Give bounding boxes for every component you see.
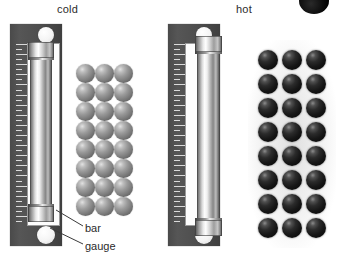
molecule-cold <box>76 83 95 102</box>
ruler-tick <box>16 79 22 80</box>
corner-blob-artifact <box>299 0 329 14</box>
ruler-tick <box>16 110 22 111</box>
ruler-tick <box>174 125 185 126</box>
molecule-hot <box>282 194 302 214</box>
ruler-tick <box>174 196 185 197</box>
molecule-hot <box>306 218 326 238</box>
ruler-tick <box>174 59 180 60</box>
ruler-tick <box>16 175 27 176</box>
callout-label-bar: bar <box>85 222 101 234</box>
molecule-hot <box>258 74 278 94</box>
bar-band-bottom-hot <box>195 218 222 220</box>
ruler-tick <box>16 74 27 75</box>
gauge-ruler-hot <box>174 44 186 226</box>
ruler-tick <box>174 44 185 45</box>
bar-band-top-cold <box>28 58 54 60</box>
ruler-tick <box>174 64 185 65</box>
molecule-cold <box>95 102 114 121</box>
ruler-tick <box>16 135 27 136</box>
metal-bar-hot <box>197 36 220 236</box>
molecule-cold <box>76 140 95 159</box>
molecule-hot <box>258 122 278 142</box>
molecule-grid-hot <box>258 50 326 238</box>
ruler-tick <box>16 120 22 121</box>
molecule-hot <box>282 170 302 190</box>
ruler-tick <box>174 186 185 187</box>
ruler-tick <box>174 181 180 182</box>
bar-cap-top-cold <box>28 42 54 58</box>
molecule-cold <box>95 121 114 140</box>
molecule-cold <box>114 121 133 140</box>
molecule-hot <box>258 194 278 214</box>
molecule-cold <box>76 121 95 140</box>
molecule-hot <box>306 74 326 94</box>
ruler-tick <box>174 95 185 96</box>
ruler-tick <box>16 201 22 202</box>
molecule-hot <box>282 50 302 70</box>
molecule-cold <box>114 140 133 159</box>
ruler-tick <box>16 150 22 151</box>
ruler-tick <box>174 110 180 111</box>
molecule-hot <box>282 122 302 142</box>
gauge-bolt-hole-top-cold <box>38 27 54 43</box>
molecule-hot <box>282 218 302 238</box>
molecule-cold <box>76 197 95 216</box>
molecule-hot <box>306 194 326 214</box>
bar-cap-bottom-cold <box>28 206 54 222</box>
ruler-tick <box>16 140 22 141</box>
molecule-hot <box>258 98 278 118</box>
molecule-hot <box>306 50 326 70</box>
ruler-tick <box>174 160 180 161</box>
molecule-hot <box>306 98 326 118</box>
ruler-tick <box>16 44 27 45</box>
ruler-tick <box>174 216 185 217</box>
ruler-tick <box>16 64 27 65</box>
ruler-tick <box>174 69 180 70</box>
molecule-hot <box>306 122 326 142</box>
gauge-ruler-cold <box>16 44 28 226</box>
molecule-hot <box>258 146 278 166</box>
ruler-tick <box>16 125 27 126</box>
molecule-cold <box>95 197 114 216</box>
ruler-tick <box>174 150 180 151</box>
ruler-tick <box>16 191 22 192</box>
ruler-tick <box>174 90 180 91</box>
bar-band-bottom-cold <box>28 204 54 206</box>
ruler-tick <box>174 170 180 171</box>
ruler-tick <box>174 135 185 136</box>
ruler-tick <box>16 59 22 60</box>
ruler-tick <box>16 170 22 171</box>
ruler-tick <box>16 160 22 161</box>
ruler-tick <box>174 201 180 202</box>
molecule-hot <box>282 98 302 118</box>
molecule-cold <box>95 140 114 159</box>
molecule-hot <box>306 146 326 166</box>
ruler-tick <box>174 140 180 141</box>
molecule-cold <box>95 64 114 83</box>
ruler-tick <box>174 54 185 55</box>
bar-shaft-cold <box>30 55 52 209</box>
ruler-tick <box>16 95 27 96</box>
ruler-tick <box>16 130 22 131</box>
molecule-cold <box>114 197 133 216</box>
ruler-tick <box>16 216 27 217</box>
ruler-tick <box>174 145 185 146</box>
ruler-tick <box>16 69 22 70</box>
ruler-tick <box>174 175 185 176</box>
bar-cap-top-hot <box>195 36 222 52</box>
molecule-cold <box>76 178 95 197</box>
ruler-tick <box>174 211 180 212</box>
ruler-tick <box>174 165 185 166</box>
molecule-hot <box>282 146 302 166</box>
ruler-tick <box>174 49 180 50</box>
metal-bar-cold <box>30 42 52 222</box>
molecule-cold <box>114 178 133 197</box>
molecule-cold <box>114 64 133 83</box>
ruler-tick <box>16 221 22 222</box>
ruler-tick <box>174 191 180 192</box>
ruler-tick <box>16 155 27 156</box>
molecule-hot <box>258 218 278 238</box>
ruler-tick <box>174 221 180 222</box>
ruler-tick <box>16 181 22 182</box>
panel-caption-hot: hot <box>236 3 252 15</box>
